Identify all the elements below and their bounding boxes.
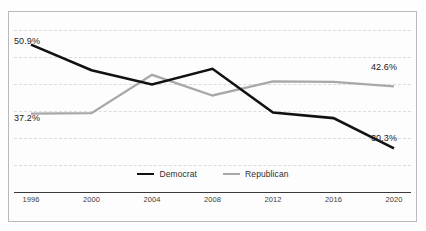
legend-swatch-republican xyxy=(223,173,240,175)
x-axis-tick-2016: 2016 xyxy=(325,195,342,204)
legend-item-democrat[interactable]: Democrat xyxy=(137,169,197,179)
x-axis-tick-2012: 2012 xyxy=(264,195,281,204)
x-axis-tick-1996: 1996 xyxy=(22,195,39,204)
legend-swatch-democrat xyxy=(137,173,154,175)
x-axis-tick-2004: 2004 xyxy=(143,195,160,204)
plot-area: 50.9% 37.2% 42.6% 30.3% 1996200020042008… xyxy=(0,0,426,231)
x-axis-tick-2020: 2020 xyxy=(385,195,402,204)
x-axis-tick-2000: 2000 xyxy=(83,195,100,204)
x-axis-tick-2008: 2008 xyxy=(204,195,221,204)
label-democrat-1996: 50.9% xyxy=(14,36,40,46)
x-axis-line xyxy=(14,192,411,193)
label-democrat-2020: 30.3% xyxy=(371,133,397,143)
legend-item-republican[interactable]: Republican xyxy=(223,169,289,179)
line-republican xyxy=(31,75,394,114)
x-axis-labels: 1996200020042008201220162020 xyxy=(14,195,411,211)
label-republican-1996: 37.2% xyxy=(14,113,40,123)
chart-container: 50.9% 37.2% 42.6% 30.3% 1996200020042008… xyxy=(0,0,426,231)
legend-label-republican: Republican xyxy=(245,169,289,179)
label-republican-2020: 42.6% xyxy=(371,62,397,72)
chart-legend: Democrat Republican xyxy=(0,169,426,179)
legend-label-democrat: Democrat xyxy=(159,169,197,179)
